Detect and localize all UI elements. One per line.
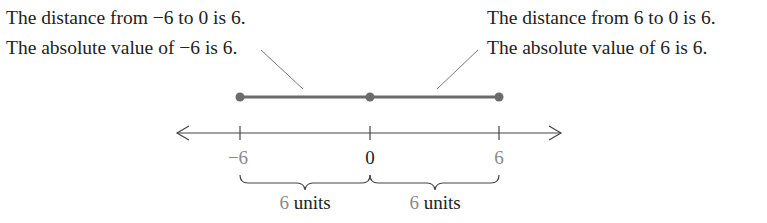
brace-left-label: 6 units xyxy=(279,192,330,213)
left-leader-line xyxy=(261,50,303,89)
point-6 xyxy=(495,93,504,102)
tick-label-6: 6 xyxy=(494,147,504,168)
point-neg6 xyxy=(236,93,245,102)
brace-right xyxy=(370,175,499,190)
tick-label-neg6: −6 xyxy=(228,147,248,168)
tick-label-0: 0 xyxy=(365,147,375,168)
right-leader-line xyxy=(437,50,478,89)
number-line-diagram: −6 0 6 6 units 6 units xyxy=(0,0,767,223)
brace-right-label: 6 units xyxy=(409,192,460,213)
brace-left xyxy=(240,175,370,190)
point-0 xyxy=(366,93,375,102)
